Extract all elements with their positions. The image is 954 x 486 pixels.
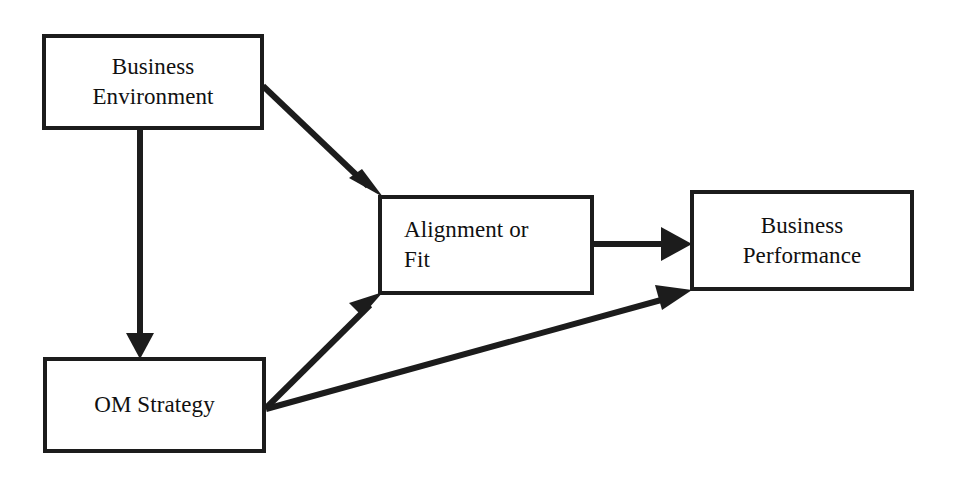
node-om-strategy: OM Strategy xyxy=(43,357,266,453)
edge-business-environment-to-om-strategy xyxy=(126,128,154,359)
node-alignment-or-fit: Alignment or Fit xyxy=(378,195,594,295)
node-label-line-2: Environment xyxy=(92,82,213,112)
node-label-line-2: Performance xyxy=(743,241,862,271)
node-label-line-1: Alignment or xyxy=(404,215,529,245)
node-label-line-1: OM Strategy xyxy=(94,390,215,420)
arrowhead xyxy=(661,227,692,261)
node-business-performance: Business Performance xyxy=(690,190,914,291)
edge-alignment-to-business-performance xyxy=(594,227,692,261)
node-business-environment: Business Environment xyxy=(42,34,264,130)
edge-line xyxy=(266,297,672,409)
arrowhead xyxy=(655,285,692,310)
node-label-line-1: Business xyxy=(761,211,844,241)
diagram-canvas: Business Environment Alignment or Fit Bu… xyxy=(0,0,954,486)
node-label-line-2: Fit xyxy=(404,245,430,275)
edge-line xyxy=(263,86,368,186)
edge-business-environment-to-alignment xyxy=(263,86,383,197)
node-label-line-1: Business xyxy=(112,52,195,82)
arrowhead xyxy=(126,333,154,359)
